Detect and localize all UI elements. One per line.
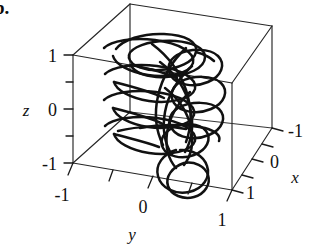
x-tick-m1	[272, 128, 283, 131]
y-tick-0	[148, 176, 153, 188]
z-axis-label: z	[22, 101, 30, 120]
x-tick-0	[252, 159, 263, 162]
z-tick-label-0: 0	[48, 100, 57, 120]
box-edge-back-top	[130, 4, 272, 26]
x-tick-label-1: 1	[246, 183, 255, 203]
x-axis-label: x	[290, 168, 299, 187]
x-tick-0p5	[242, 175, 253, 178]
y-tick-m1	[68, 163, 73, 175]
x-tick-m0p5	[262, 144, 273, 147]
y-tick-label-0: 0	[139, 197, 148, 217]
x-tick-label-m1: -1	[288, 121, 303, 141]
z-axis-ticks	[64, 55, 73, 163]
z-tick-label-m1: -1	[42, 154, 57, 174]
x-tick-1	[232, 190, 243, 193]
y-tick-label-1: 1	[218, 210, 227, 230]
y-tick-1	[227, 190, 232, 201]
y-tick-m0p5	[109, 170, 113, 181]
figure-3d-space-curve: b.	[0, 0, 313, 247]
box-edge-back-top-left	[73, 4, 130, 55]
z-tick-label-1: 1	[48, 46, 57, 66]
curve-segment-24	[114, 134, 159, 147]
plot-svg: 1 0 -1 z -1 0 1 y -1 0 1 x	[0, 0, 313, 247]
box-edge-back-top-right	[232, 26, 272, 83]
y-tick-label-m1: -1	[55, 185, 70, 205]
curve-segment-20	[118, 127, 186, 131]
y-axis-label: y	[126, 225, 136, 244]
x-tick-label-0: 0	[270, 152, 279, 172]
space-curve	[104, 34, 225, 198]
